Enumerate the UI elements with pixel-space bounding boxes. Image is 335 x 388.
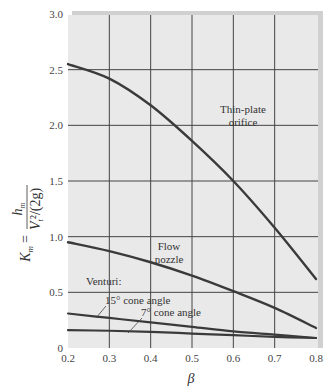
y-axis-title: Km= hm Vt²/(2g) xyxy=(10,185,45,263)
y-tick-label: 3.0 xyxy=(49,8,63,20)
y-tick-label: 1.5 xyxy=(49,175,63,187)
x-axis-ticks: 0.20.30.40.50.60.70.8 xyxy=(61,352,323,364)
svg-text:Km=: Km= xyxy=(18,235,35,263)
y-tick-label: 2.5 xyxy=(49,64,63,76)
x-tick-label: 0.5 xyxy=(185,352,199,364)
x-tick-label: 0.4 xyxy=(144,352,158,364)
x-tick-label: 0.6 xyxy=(226,352,240,364)
label-flow: Flow xyxy=(158,240,181,252)
label-thin-plate: Thin-plate xyxy=(220,103,266,115)
y-tick-label: 2.0 xyxy=(49,119,63,131)
label-venturi: Venturi: xyxy=(86,275,121,287)
label-15-cone: 15° cone angle xyxy=(105,294,171,306)
label-orifice: orifice xyxy=(229,116,258,128)
label-nozzle: nozzle xyxy=(155,253,184,265)
label-7-cone: 7° cone angle xyxy=(141,306,201,318)
x-tick-label: 0.8 xyxy=(309,352,323,364)
svg-text:Vt²/(2g): Vt²/(2g) xyxy=(28,188,45,231)
y-tick-label: 1.0 xyxy=(49,231,63,243)
y-axis-ticks: 00.51.01.52.02.53.0 xyxy=(49,8,63,354)
x-tick-label: 0.7 xyxy=(268,352,282,364)
x-tick-label: 0.2 xyxy=(61,352,75,364)
y-tick-label: 0.5 xyxy=(49,286,63,298)
chart: 00.51.01.52.02.53.0 0.20.30.40.50.60.70.… xyxy=(0,0,335,388)
x-tick-label: 0.3 xyxy=(102,352,116,364)
x-axis-title: β xyxy=(187,371,195,386)
svg-text:hm: hm xyxy=(10,202,27,215)
